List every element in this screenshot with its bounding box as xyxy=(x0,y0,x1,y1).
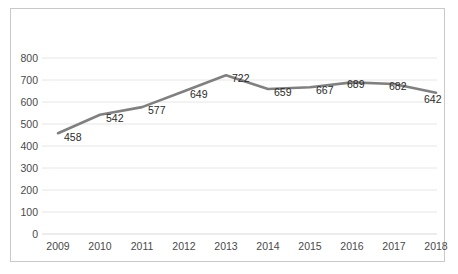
xtick-label-2018: 2018 xyxy=(416,240,456,252)
xtick-label-2014: 2014 xyxy=(248,240,288,252)
ytick-label-700: 700 xyxy=(8,74,38,86)
ytick-label-100: 100 xyxy=(8,206,38,218)
ytick-label-0: 0 xyxy=(8,228,38,240)
ytick-label-800: 800 xyxy=(8,52,38,64)
xtick-label-2011: 2011 xyxy=(122,240,162,252)
data-label-2018: 642 xyxy=(424,93,442,105)
ytick-label-300: 300 xyxy=(8,162,38,174)
ytick-label-200: 200 xyxy=(8,184,38,196)
xtick-label-2013: 2013 xyxy=(206,240,246,252)
data-label-2017: 682 xyxy=(389,80,407,92)
xtick-label-2012: 2012 xyxy=(164,240,204,252)
data-label-2013: 722 xyxy=(232,72,250,84)
data-label-2010: 542 xyxy=(106,112,124,124)
xtick-label-2015: 2015 xyxy=(290,240,330,252)
xtick-label-2016: 2016 xyxy=(332,240,372,252)
line-chart-figure: 800 700 600 500 400 300 200 100 0 2009 2… xyxy=(0,0,458,274)
ytick-label-600: 600 xyxy=(8,96,38,108)
data-label-2014: 659 xyxy=(274,86,292,98)
data-label-2015: 667 xyxy=(316,84,334,96)
data-label-2011: 577 xyxy=(148,104,166,116)
data-label-2012: 649 xyxy=(190,88,208,100)
xtick-label-2010: 2010 xyxy=(80,240,120,252)
data-label-2016: 689 xyxy=(347,78,365,90)
xtick-label-2009: 2009 xyxy=(38,240,78,252)
ytick-label-400: 400 xyxy=(8,140,38,152)
xtick-label-2017: 2017 xyxy=(374,240,414,252)
data-label-2009: 458 xyxy=(64,131,82,143)
ytick-label-500: 500 xyxy=(8,118,38,130)
